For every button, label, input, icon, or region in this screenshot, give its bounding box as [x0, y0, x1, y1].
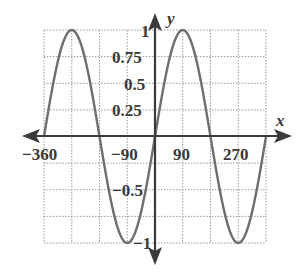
- x-axis-label: x: [275, 111, 285, 130]
- y-tick-label: −1: [133, 234, 151, 253]
- y-axis-label: y: [165, 9, 175, 28]
- sine-graph: −360 −90 90 270 1 0.75 0.5 0.25 −0.5 −1 …: [0, 0, 308, 278]
- y-tick-label: 0.5: [124, 75, 145, 94]
- axes: [22, 13, 292, 265]
- y-tick-label: −0.5: [112, 181, 143, 200]
- y-tick-label: 0.75: [112, 48, 142, 67]
- x-tick-label: −360: [22, 145, 57, 164]
- x-tick-label: 90: [173, 145, 190, 164]
- x-tick-label: −90: [111, 145, 138, 164]
- y-tick-label: 0.25: [112, 101, 142, 120]
- y-tick-label: 1: [141, 22, 150, 41]
- x-tick-label: 270: [223, 145, 249, 164]
